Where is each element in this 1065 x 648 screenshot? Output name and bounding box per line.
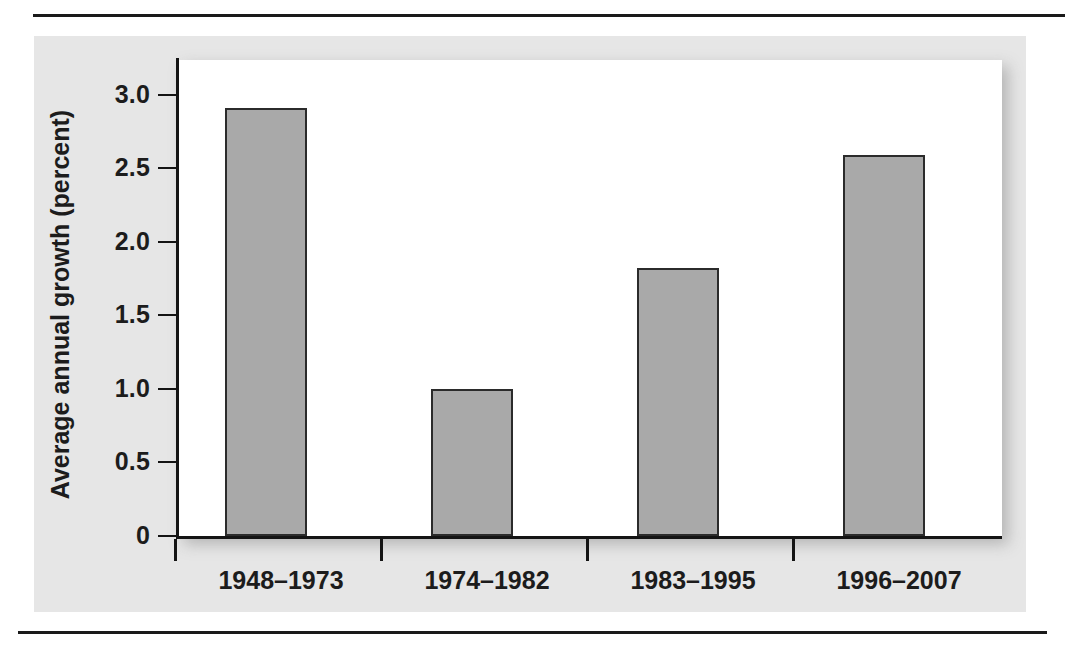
x-axis-tick <box>792 539 795 561</box>
x-axis-tick <box>586 539 589 561</box>
y-axis-tick <box>158 94 177 96</box>
y-axis-tick <box>158 314 177 316</box>
y-axis-tick <box>158 461 177 463</box>
y-axis-tick-label: 1.5 <box>50 300 150 329</box>
x-axis-tick <box>174 539 177 561</box>
x-axis-tick-label: 1996–2007 <box>796 566 1002 595</box>
x-axis-tick-label: 1948–1973 <box>178 566 384 595</box>
y-axis-tick <box>158 388 177 390</box>
x-axis-tick-label: 1983–1995 <box>590 566 796 595</box>
y-axis-tick <box>158 167 177 169</box>
figure-top-rule <box>33 14 1065 17</box>
y-axis-tick-label: 3.0 <box>50 80 150 109</box>
y-axis-tick-label: 2.5 <box>50 153 150 182</box>
x-axis-tick-label: 1974–1982 <box>384 566 590 595</box>
y-axis-tick-label: 0 <box>50 521 150 550</box>
y-axis-line <box>176 58 179 539</box>
figure-bottom-rule <box>18 631 1047 634</box>
bar <box>225 108 307 536</box>
bar <box>431 389 513 536</box>
y-axis-tick <box>158 535 177 537</box>
y-axis-tick-label: 1.0 <box>50 374 150 403</box>
y-axis-tick-label: 2.0 <box>50 227 150 256</box>
bar <box>843 155 925 536</box>
x-axis-line <box>176 536 1002 539</box>
y-axis-tick <box>158 241 177 243</box>
x-axis-tick <box>380 539 383 561</box>
figure-container: Average annual growth (percent) 00.51.01… <box>0 0 1065 648</box>
bar <box>637 268 719 536</box>
y-axis-tick-label: 0.5 <box>50 447 150 476</box>
